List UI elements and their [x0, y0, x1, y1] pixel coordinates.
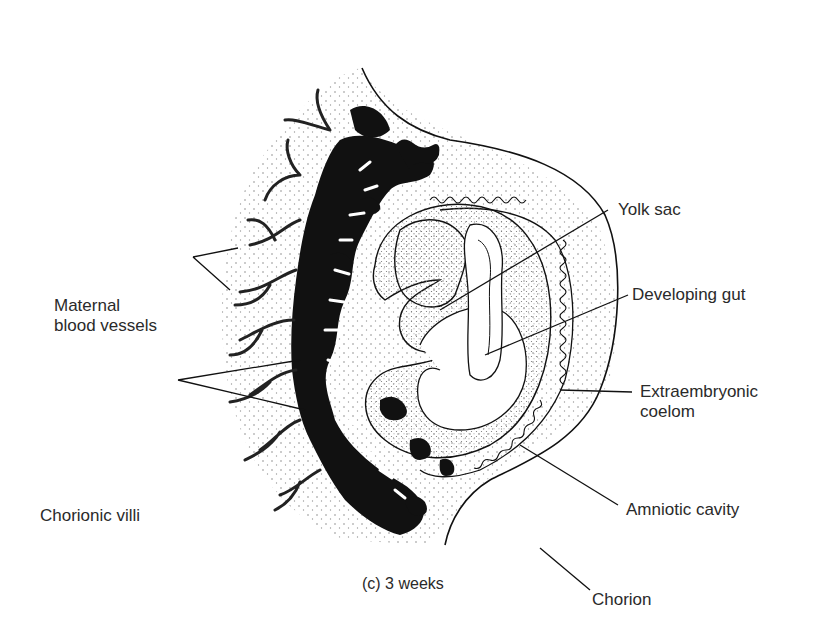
label-maternal-line2: blood vessels — [54, 316, 157, 336]
label-coelom-line1: Extraembryonic — [640, 382, 758, 402]
label-developing-gut: Developing gut — [632, 285, 745, 305]
leader-chorion — [540, 548, 590, 590]
label-extraembryonic-coelom: Extraembryonic coelom — [640, 382, 758, 422]
label-maternal-line1: Maternal — [54, 296, 157, 316]
label-chorion: Chorion — [592, 590, 652, 610]
developing-gut — [464, 224, 502, 380]
figure-caption: (c) 3 weeks — [362, 575, 444, 593]
label-coelom-line2: coelom — [640, 402, 758, 422]
yolk-sac — [395, 220, 467, 307]
label-maternal-blood-vessels: Maternal blood vessels — [54, 296, 157, 336]
label-chorionic-villi: Chorionic villi — [40, 506, 140, 526]
leader-amniotic-cavity — [520, 445, 618, 505]
label-amniotic-cavity: Amniotic cavity — [626, 500, 739, 520]
label-yolk-sac: Yolk sac — [618, 200, 681, 220]
